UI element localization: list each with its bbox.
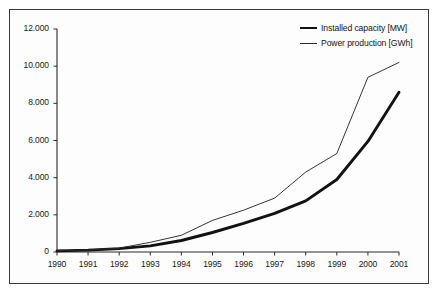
y-tick-label: 0 xyxy=(0,246,49,256)
legend-item-power-production: Power production [GWh] xyxy=(300,38,412,48)
chart-figure: 02.0004.0006.0008.00010.00012.000 199019… xyxy=(0,0,438,293)
legend-item-installed-capacity: Installed capacity [MW] xyxy=(300,23,407,33)
legend-label-power-production: Power production [GWh] xyxy=(321,38,412,48)
y-tick-label: 8.000 xyxy=(0,97,49,107)
y-tick-label: 10.000 xyxy=(0,60,49,70)
legend-label-installed-capacity: Installed capacity [MW] xyxy=(321,23,407,33)
x-tick-label: 2001 xyxy=(380,259,418,269)
series-line-thin xyxy=(57,62,399,250)
y-tick-label: 6.000 xyxy=(0,135,49,145)
y-tick-label: 2.000 xyxy=(0,209,49,219)
y-tick-label: 12.000 xyxy=(0,23,49,33)
y-tick-label: 4.000 xyxy=(0,172,49,182)
series-line-thick xyxy=(57,92,399,251)
chart-series-group xyxy=(57,62,399,250)
chart-plot-area: 02.0004.0006.0008.00010.00012.000 199019… xyxy=(0,0,438,293)
legend-swatch-power-production xyxy=(300,43,317,44)
legend-swatch-installed-capacity xyxy=(300,27,317,29)
